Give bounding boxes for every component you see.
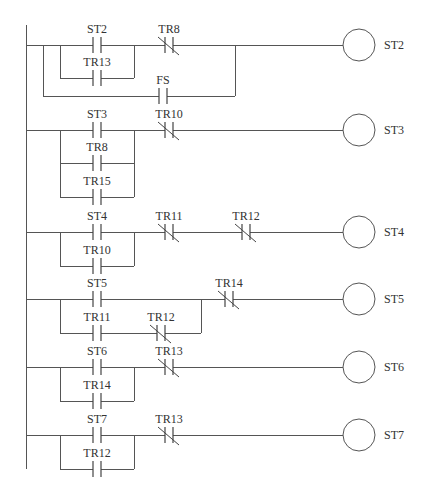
- nc-contact-tr12: TR12: [147, 310, 174, 343]
- nc-slash-icon: [158, 427, 179, 445]
- no-contact-tr14: TR14: [83, 378, 110, 409]
- rung-st6: ST6TR14TR13ST6: [26, 344, 404, 409]
- contact-label: ST5: [87, 276, 107, 290]
- nc-contact-tr11: TR11: [156, 209, 183, 242]
- no-contact-st2: ST2: [87, 22, 107, 53]
- contact-label: TR12: [83, 446, 110, 460]
- no-contact-st3: ST3: [87, 107, 107, 138]
- contact-label: FS: [156, 73, 169, 87]
- coil-label: ST5: [384, 292, 404, 306]
- contact-label: ST3: [87, 107, 107, 121]
- coil-circle-icon: [343, 283, 375, 315]
- coil-label: ST7: [384, 428, 404, 442]
- coil-circle-icon: [343, 351, 375, 383]
- coil-circle-icon: [343, 216, 375, 248]
- nc-contact-tr14: TR14: [215, 276, 242, 309]
- output-coil-st2: ST2: [343, 29, 404, 61]
- coil-circle-icon: [343, 29, 375, 61]
- contact-label: ST6: [87, 344, 107, 358]
- rung-st7: ST7TR12TR13ST7: [26, 412, 404, 477]
- output-coil-st6: ST6: [343, 351, 404, 383]
- coil-label: ST2: [384, 38, 404, 52]
- contact-label: TR13: [155, 344, 182, 358]
- coil-label: ST6: [384, 360, 404, 374]
- contact-label: ST4: [87, 209, 107, 223]
- contact-label: TR13: [155, 412, 182, 426]
- nc-slash-icon: [150, 325, 171, 343]
- nc-contact-tr8: TR8: [158, 22, 180, 55]
- rung-st2: ST2TR13TR8FSST2: [26, 22, 404, 104]
- nc-contact-tr13: TR13: [155, 344, 182, 377]
- contact-label: TR10: [83, 243, 110, 257]
- contact-label: TR11: [156, 209, 183, 223]
- nc-slash-icon: [158, 359, 179, 377]
- rung-st3: ST3TR8TR15TR10ST3: [26, 107, 404, 205]
- no-contact-tr12: TR12: [83, 446, 110, 477]
- nc-slash-icon: [158, 122, 179, 140]
- no-contact-fs: FS: [156, 73, 169, 104]
- contact-label: ST2: [87, 22, 107, 36]
- no-contact-st4: ST4: [87, 209, 107, 240]
- rung-st5: ST5TR11TR12TR14ST5: [26, 276, 404, 343]
- no-contact-st6: ST6: [87, 344, 107, 375]
- nc-slash-icon: [235, 224, 256, 242]
- contact-label: TR14: [215, 276, 242, 290]
- no-contact-tr13: TR13: [83, 55, 110, 86]
- contact-label: TR12: [147, 310, 174, 324]
- coil-label: ST4: [384, 225, 404, 239]
- coil-circle-icon: [343, 114, 375, 146]
- nc-slash-icon: [218, 291, 239, 309]
- nc-slash-icon: [158, 37, 179, 55]
- output-coil-st3: ST3: [343, 114, 404, 146]
- contact-label: TR8: [158, 22, 179, 36]
- no-contact-tr11: TR11: [84, 310, 111, 341]
- contact-label: ST7: [87, 412, 107, 426]
- nc-contact-tr10: TR10: [155, 107, 182, 140]
- contact-label: TR14: [83, 378, 110, 392]
- contact-label: TR13: [83, 55, 110, 69]
- no-contact-tr8: TR8: [86, 140, 107, 171]
- coil-label: ST3: [384, 123, 404, 137]
- ladder-diagram: ST2TR13TR8FSST2ST3TR8TR15TR10ST3ST4TR10T…: [0, 0, 423, 496]
- nc-contact-tr12: TR12: [232, 209, 259, 242]
- contact-label: TR10: [155, 107, 182, 121]
- coil-circle-icon: [343, 419, 375, 451]
- rung-st4: ST4TR10TR11TR12ST4: [26, 209, 404, 274]
- nc-slash-icon: [158, 224, 179, 242]
- no-contact-st5: ST5: [87, 276, 107, 307]
- output-coil-st4: ST4: [343, 216, 404, 248]
- parallel-branch: [43, 45, 235, 96]
- nc-contact-tr13: TR13: [155, 412, 182, 445]
- no-contact-tr15: TR15: [83, 174, 110, 205]
- contact-label: TR15: [83, 174, 110, 188]
- contact-label: TR8: [86, 140, 107, 154]
- contact-label: TR11: [84, 310, 111, 324]
- no-contact-tr10: TR10: [83, 243, 110, 274]
- output-coil-st5: ST5: [343, 283, 404, 315]
- parallel-branch: [60, 299, 201, 333]
- no-contact-st7: ST7: [87, 412, 107, 443]
- contact-label: TR12: [232, 209, 259, 223]
- output-coil-st7: ST7: [343, 419, 404, 451]
